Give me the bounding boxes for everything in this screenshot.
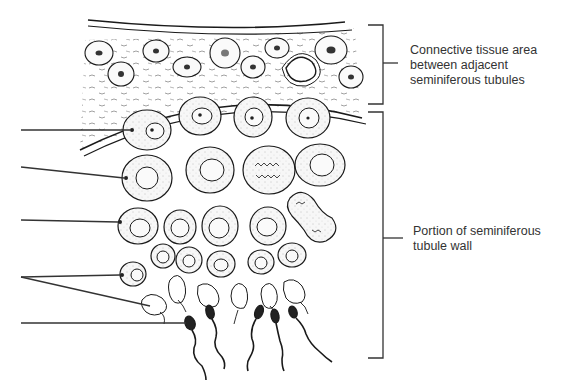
label-line: seminiferous tubules <box>410 73 537 88</box>
label-line: Portion of seminiferous <box>413 224 541 239</box>
label-line: Connective tissue area <box>410 43 537 58</box>
connective-tissue-bracket <box>368 25 383 104</box>
leader-line-spermatid-a <box>21 275 120 277</box>
tubule-wall-label: Portion of seminiferous tubule wall <box>413 224 541 254</box>
label-line: tubule wall <box>413 239 541 254</box>
label-line: between adjacent <box>410 58 537 73</box>
germ-cells <box>118 97 345 380</box>
connective-tissue-label: Connective tissue area between adjacent … <box>410 43 537 88</box>
leader-line-secondary-spermatocyte <box>21 220 118 222</box>
connective-tissue-band <box>80 20 366 156</box>
tubule-wall-bracket <box>368 112 383 358</box>
brackets <box>368 25 403 358</box>
leader-line-primary-spermatocyte <box>21 167 124 178</box>
